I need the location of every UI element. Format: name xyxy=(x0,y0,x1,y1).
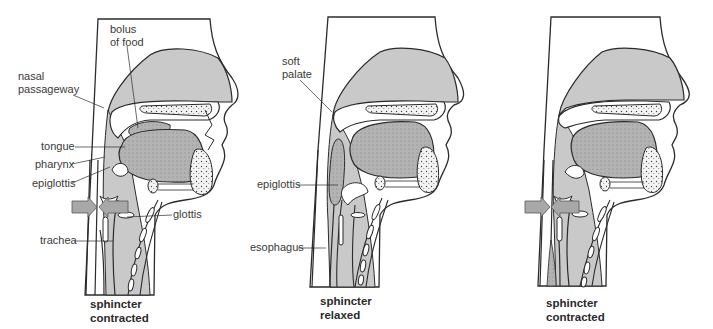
head-cross-section-diagram xyxy=(480,0,713,329)
soft-palate-label: softpalate xyxy=(282,55,312,81)
caption-sphincter-contracted: sphinctercontracted xyxy=(546,296,605,324)
head-cross-section-diagram xyxy=(240,0,480,329)
panel-swallow-stage-2: softpalate epiglottis esophagus sphincte… xyxy=(240,0,480,329)
caption-sphincter-contracted: sphinctercontracted xyxy=(90,297,149,325)
trachea-label: trachea xyxy=(40,234,77,247)
bolus-label: bolusof food xyxy=(110,23,144,49)
tongue-label: tongue xyxy=(41,140,75,153)
panel-swallow-stage-1: bolusof food nasalpassageway tongue phar… xyxy=(0,0,240,329)
nasal-passageway-label: nasalpassageway xyxy=(18,70,79,96)
epiglottis-label: epiglottis xyxy=(32,177,75,190)
esophagus-label: esophagus xyxy=(250,241,304,254)
caption-sphincter-relaxed: sphincterrelaxed xyxy=(320,294,372,322)
epiglottis-label: epiglottis xyxy=(257,178,300,191)
pharynx-label: pharynx xyxy=(35,158,74,171)
panel-swallow-stage-3: sphinctercontracted xyxy=(480,0,713,329)
glottis-label: glottis xyxy=(173,208,202,221)
